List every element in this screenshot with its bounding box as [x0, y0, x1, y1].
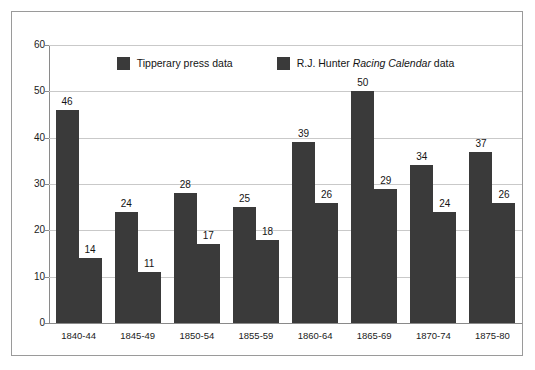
y-tick-label-60: 60 [23, 40, 45, 50]
bar-value-label: 24 [425, 199, 465, 209]
gridline-0 [49, 323, 522, 324]
bar-group: 3726 [469, 45, 515, 323]
bar-group: 3424 [410, 45, 456, 323]
x-tick-label-1875-80: 1875-80 [462, 330, 522, 341]
bar[interactable] [410, 165, 433, 323]
x-tick-label-1860-64: 1860-64 [285, 330, 345, 341]
bar-value-label: 18 [247, 227, 287, 237]
bar[interactable] [315, 203, 338, 323]
y-tick-mark-20 [45, 230, 49, 231]
bar-group: 2518 [233, 45, 279, 323]
y-tick-mark-0 [45, 323, 49, 324]
bar-value-label: 24 [106, 199, 146, 209]
y-tick-mark-10 [45, 277, 49, 278]
bar-group: 3926 [292, 45, 338, 323]
y-tick-label-20: 20 [23, 225, 45, 235]
chart-frame: 0102030405060 46142411281725183926502934… [11, 11, 523, 356]
bar-value-label: 26 [484, 190, 524, 200]
y-tick-label-30: 30 [23, 179, 45, 189]
bar[interactable] [469, 152, 492, 323]
x-tick-label-1840-44: 1840-44 [49, 330, 109, 341]
bar-value-label: 14 [70, 245, 110, 255]
y-tick-mark-30 [45, 184, 49, 185]
bar-value-label: 50 [343, 78, 383, 88]
bar-value-label: 29 [366, 176, 406, 186]
bar[interactable] [292, 142, 315, 323]
bar-value-label: 11 [129, 259, 169, 269]
bar[interactable] [233, 207, 256, 323]
x-tick-label-1865-69: 1865-69 [344, 330, 404, 341]
bar[interactable] [56, 110, 79, 323]
bar-value-label: 25 [224, 194, 264, 204]
bar[interactable] [374, 189, 397, 323]
x-tick-label-1850-54: 1850-54 [167, 330, 227, 341]
x-axis-tick-labels: 1840-441845-491850-541855-591860-641865-… [49, 330, 522, 346]
y-tick-label-50: 50 [23, 86, 45, 96]
y-tick-mark-40 [45, 138, 49, 139]
bar[interactable] [351, 91, 374, 323]
bar-value-label: 37 [461, 139, 501, 149]
y-tick-mark-50 [45, 91, 49, 92]
bar[interactable] [138, 272, 161, 323]
bar-group: 2817 [174, 45, 220, 323]
bar[interactable] [433, 212, 456, 323]
bar-group: 2411 [115, 45, 161, 323]
plot-area: 46142411281725183926502934243726 [49, 45, 522, 323]
x-tick-label-1845-49: 1845-49 [108, 330, 168, 341]
bar-group: 4614 [56, 45, 102, 323]
bar[interactable] [174, 193, 197, 323]
bar-value-label: 39 [284, 129, 324, 139]
bar[interactable] [492, 203, 515, 323]
bar-group: 5029 [351, 45, 397, 323]
bar-value-label: 17 [188, 231, 228, 241]
y-tick-mark-60 [45, 45, 49, 46]
bar-value-label: 34 [402, 152, 442, 162]
bar[interactable] [256, 240, 279, 323]
y-tick-label-40: 40 [23, 133, 45, 143]
y-tick-label-0: 0 [23, 318, 45, 328]
bar-value-label: 28 [165, 180, 205, 190]
x-tick-label-1870-74: 1870-74 [403, 330, 463, 341]
bar-value-label: 26 [307, 190, 347, 200]
y-axis-tick-labels: 0102030405060 [20, 45, 45, 323]
bar-value-label: 46 [47, 97, 87, 107]
x-tick-label-1855-59: 1855-59 [226, 330, 286, 341]
y-tick-label-10: 10 [23, 272, 45, 282]
bar[interactable] [197, 244, 220, 323]
bar[interactable] [79, 258, 102, 323]
